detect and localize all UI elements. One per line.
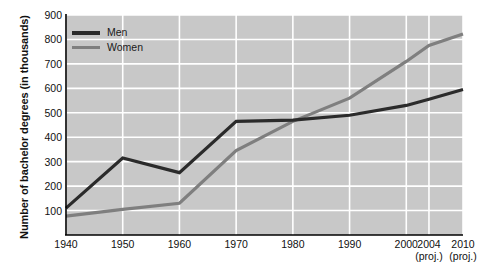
x-axis-tick-year: 1960 [168, 238, 191, 250]
legend-label-men: Men [107, 27, 127, 38]
x-axis-tick-label: 1990 [338, 238, 361, 250]
chart-legend: Men Women [72, 25, 162, 55]
x-axis-tick-labels: 19401950196019701980199020002004(proj.)2… [0, 238, 490, 278]
x-axis-tick-year: 1980 [281, 238, 304, 250]
x-axis-tick-label: 2004(proj.) [415, 238, 442, 262]
legend-label-women: Women [107, 42, 143, 53]
legend-swatch-women [72, 46, 100, 49]
legend-item-women: Women [72, 40, 162, 55]
x-axis-tick-label: 1980 [281, 238, 304, 250]
x-axis-tick-projection-note: (proj.) [415, 250, 442, 262]
legend-swatch-men [72, 31, 100, 35]
x-axis-tick-year: 2004 [417, 238, 440, 250]
x-axis-tick-year: 2010 [451, 238, 474, 250]
x-axis-tick-year: 1990 [338, 238, 361, 250]
x-axis-tick-label: 1970 [224, 238, 247, 250]
x-axis-tick-projection-note: (proj.) [449, 250, 476, 262]
x-axis-tick-year: 1950 [111, 238, 134, 250]
legend-item-men: Men [72, 25, 162, 40]
x-axis-tick-label: 2010(proj.) [449, 238, 476, 262]
x-axis-tick-year: 1940 [54, 238, 77, 250]
x-axis-tick-label: 1960 [168, 238, 191, 250]
x-axis-tick-label: 1950 [111, 238, 134, 250]
x-axis-tick-label: 1940 [54, 238, 77, 250]
x-axis-tick-year: 1970 [224, 238, 247, 250]
bachelor-degrees-line-chart: Number of bachelor degrees (in thousands… [0, 0, 490, 279]
